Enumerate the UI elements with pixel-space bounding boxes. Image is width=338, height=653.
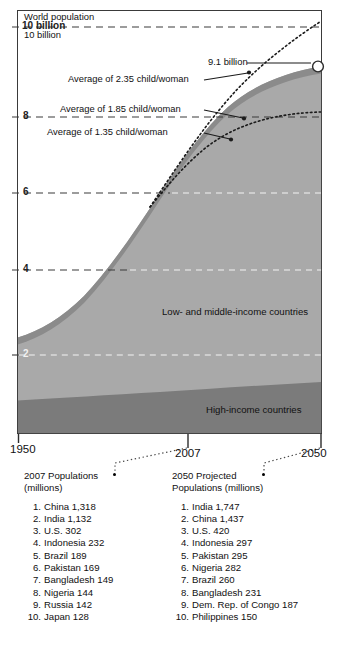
x-axis-ticks [19,434,322,448]
list-item-rank: 5. [172,550,189,562]
band-label-high-income: High-income countries [206,404,301,415]
ten-billion-label: 10 billion [24,29,61,40]
list-item-label: Brazil 260 [192,574,235,586]
avg-1p35-child-woman-label: Average of 1.35 child/woman [47,126,168,137]
world-population-figure: 10 billion 8 6 4 2 World population 9.1 … [0,0,338,653]
avg-1p85-child-woman-label: Average of 1.85 child/woman [60,103,181,114]
list-item: 8.Nigeria 144 [24,587,169,599]
list-item-rank: 10. [172,611,189,623]
leader-dot-avg-185 [242,116,246,120]
population-list-2050: 2050 Projected Populations (millions) 1.… [172,470,332,624]
list-item: 10.Philippines 150 [172,611,332,623]
list-item-rank: 4. [172,537,189,549]
list-item: 9.Russia 142 [24,599,169,611]
list-item-label: Indonesia 297 [192,537,252,549]
list-item-rank: 2. [24,513,41,525]
list-item: 7.Brazil 260 [172,574,332,586]
list-item-label: Bangladesh 149 [44,574,113,586]
list-item: 5.Brazil 189 [24,550,169,562]
list-item-label: U.S. 420 [192,525,229,537]
list-item: 3.U.S. 302 [24,525,169,537]
list-item-label: U.S. 302 [44,525,81,537]
leader-dot-avg-235 [247,70,251,74]
list-item-rank: 6. [24,562,41,574]
leader-dot-avg-135 [229,137,233,141]
list-item-label: Philippines 150 [192,611,257,623]
list-item-rank: 4. [24,537,41,549]
population-list-2050-heading-line1: 2050 Projected [172,470,332,482]
x-axis-label-2050: 2050 [301,447,327,459]
list-item-rank: 3. [172,525,189,537]
list-item-label: Indonesia 232 [44,537,104,549]
x-axis-label-1950: 1950 [10,443,36,455]
list-item: 1.China 1,318 [24,501,169,513]
avg-2p35-child-woman-label: Average of 2.35 child/woman [68,73,189,84]
leader-avg-235 [204,73,248,80]
population-list-2007: 2007 Populations (millions) 1.China 1,31… [24,470,169,624]
list-item: 7.Bangladesh 149 [24,574,169,586]
nine-point-one-billion-label: 9.1 billion [208,56,248,67]
list-item-label: Pakistan 295 [192,550,247,562]
list-item-label: Russia 142 [44,599,92,611]
list-item-label: Pakistan 169 [44,562,99,574]
list-item: 6.Nigeria 282 [172,562,332,574]
y-axis-label-4: 4 [23,263,29,274]
list-item-label: Japan 128 [44,611,89,623]
list-item-rank: 10. [24,611,41,623]
y-axis-label-2: 2 [23,348,29,359]
y-axis-label-6: 6 [23,186,29,197]
list-item: 2.India 1,132 [24,513,169,525]
list-item-rank: 6. [172,562,189,574]
population-list-2050-heading-line2: Populations (millions) [172,482,332,494]
x-axis-label-2007: 2007 [175,447,201,459]
population-list-2007-heading-line1: 2007 Populations [24,470,169,482]
list-item-label: Brazil 189 [44,550,87,562]
list-item: 4.Indonesia 297 [172,537,332,549]
list-item-rank: 7. [24,574,41,586]
population-list-2050-items: 1.India 1,747 2.China 1,437 3.U.S. 420 4… [172,501,332,624]
list-item: 4.Indonesia 232 [24,537,169,549]
list-item-label: India 1,747 [192,501,239,513]
list-item-rank: 1. [24,501,41,513]
list-item: 6.Pakistan 169 [24,562,169,574]
population-list-2007-heading-line2: (millions) [24,482,169,494]
band-label-low-middle-income: Low- and middle-income countries [162,306,308,317]
list-item-label: China 1,437 [192,513,244,525]
y-axis-label-8: 8 [23,110,29,121]
list-item: 2.China 1,437 [172,513,332,525]
list-item-label: India 1,132 [44,513,91,525]
list-item-rank: 5. [24,550,41,562]
list-item-label: Nigeria 144 [44,587,93,599]
population-list-2007-items: 1.China 1,318 2.India 1,132 3.U.S. 302 4… [24,501,169,624]
list-item-rank: 7. [172,574,189,586]
total-endpoint-marker [313,61,324,72]
list-item-rank: 8. [24,587,41,599]
list-item-rank: 8. [172,587,189,599]
list-item-rank: 1. [172,501,189,513]
list-item: 9.Dem. Rep. of Congo 187 [172,599,332,611]
stacked-areas [18,67,322,434]
area-low-middle-income [18,67,322,434]
world-population-label: World population [24,11,94,22]
list-item: 1.India 1,747 [172,501,332,513]
list-item-label: Nigeria 282 [192,562,241,574]
list-item: 10.Japan 128 [24,611,169,623]
list-item-rank: 2. [172,513,189,525]
list-item-label: Bangladesh 231 [192,587,261,599]
list-item-label: Dem. Rep. of Congo 187 [192,599,298,611]
list-item-label: China 1,318 [44,501,96,513]
list-item: 3.U.S. 420 [172,525,332,537]
list-item-rank: 9. [24,599,41,611]
list-item-rank: 9. [172,599,189,611]
list-item-rank: 3. [24,525,41,537]
list-item: 5.Pakistan 295 [172,550,332,562]
list-item: 8.Bangladesh 231 [172,587,332,599]
